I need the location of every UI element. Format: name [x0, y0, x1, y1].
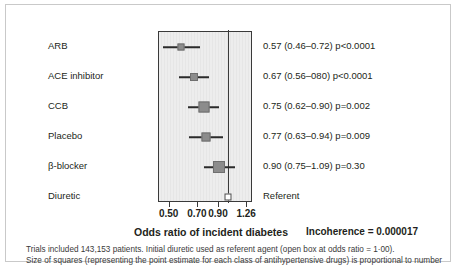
- row-label: β-blocker: [48, 151, 152, 181]
- x-axis-title: Odds ratio of incident diabetes: [134, 226, 288, 238]
- statistic-value: 0.77 (0.63–0.94) p=0.009: [263, 121, 453, 151]
- forest-plot-figure: ARB ACE inhibitor CCB Placebo β-blocker …: [5, 4, 451, 262]
- forest-row: [159, 62, 251, 92]
- axis-tick-label: 0.70: [187, 208, 206, 219]
- forest-row: [159, 122, 251, 152]
- point-estimate-marker: [190, 73, 198, 81]
- row-label: ACE inhibitor: [48, 61, 152, 91]
- statistic-value: 0.67 (0.56–080) p<0.0001: [263, 61, 453, 91]
- footnote-line-1: Trials included 143,153 patients. Initia…: [26, 245, 440, 256]
- axis-tick-label: 0.90: [208, 208, 227, 219]
- forest-row: [159, 152, 251, 182]
- row-label: CCB: [48, 91, 152, 121]
- axis-tick-label: 0.50: [159, 208, 178, 219]
- axis-tick: [218, 202, 219, 207]
- forest-row: [159, 92, 251, 122]
- axis-tick-label: 1.26: [236, 208, 255, 219]
- forest-row: [159, 32, 251, 62]
- referent-open-marker: [224, 194, 231, 201]
- axis-tick: [246, 202, 247, 207]
- plot-area: [158, 31, 252, 202]
- x-axis-tick-labels: 0.500.700.901.26: [138, 208, 272, 222]
- point-estimate-marker: [201, 133, 210, 142]
- row-label: Diuretic: [48, 181, 152, 211]
- point-estimate-marker: [213, 161, 225, 173]
- axis-tick: [197, 202, 198, 207]
- statistics-column: 0.57 (0.46–0.72) p<0.0001 0.67 (0.56–080…: [263, 31, 453, 211]
- row-label: ARB: [48, 31, 152, 61]
- row-label-column: ARB ACE inhibitor CCB Placebo β-blocker …: [48, 31, 152, 211]
- figure-footnote: Trials included 143,153 patients. Initia…: [26, 245, 440, 266]
- axis-tick: [169, 202, 170, 207]
- statistic-value: Referent: [263, 181, 453, 211]
- point-estimate-marker: [198, 102, 209, 113]
- incoherence-label: Incoherence = 0.000017: [306, 226, 418, 237]
- statistic-value: 0.90 (0.75–1.09) p=0.30: [263, 151, 453, 181]
- point-estimate-marker: [177, 44, 184, 51]
- statistic-value: 0.75 (0.62–0.90) p=0.002: [263, 91, 453, 121]
- statistic-value: 0.57 (0.46–0.72) p<0.0001: [263, 31, 453, 61]
- footnote-line-2: Size of squares (representing the point …: [26, 256, 440, 267]
- row-label: Placebo: [48, 121, 152, 151]
